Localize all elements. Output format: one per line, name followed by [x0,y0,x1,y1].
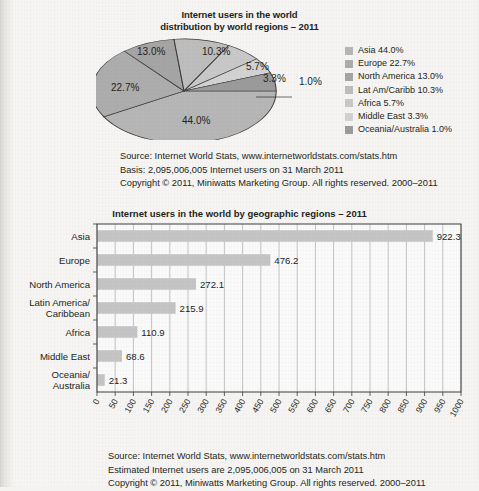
x-axis-tick-label: 800 [377,397,393,415]
pie-label-oceania: 1.0% [299,76,322,87]
bar-value-label: 272.1 [200,279,224,290]
x-axis-tick-label: 900 [413,397,429,415]
x-axis-tick-label: 150 [140,397,156,415]
legend-label: Middle East 3.3% [358,110,428,123]
pie-note-source-text: Source: Internet World Stats, www.intern… [120,151,397,161]
bar-category-label: Australia [53,380,91,391]
legend-label: Asia 44.0% [358,44,404,57]
x-axis-tick-label: 350 [213,397,229,415]
legend-swatch-icon [345,113,353,121]
x-axis-tick-label: 850 [395,397,411,415]
bar-note-source: Source: Internet World Stats, www.intern… [108,450,426,464]
legend-swatch-icon [345,47,353,55]
bar-category-label: Asia [71,231,90,242]
bar-chart: 922.3476.2272.1215.9110.968.621.3AsiaEur… [0,222,479,422]
pie-label-middle-east: 3.3% [263,73,286,84]
bar-note-copyright: Copyright © 2011, Miniwatts Marketing Gr… [108,477,426,491]
pie-title-line-2: distribution by world regions – 2011 [0,21,479,33]
bar-chart-title: Internet users in the world by geographi… [0,208,479,219]
legend-swatch-icon [345,86,353,94]
pie-label-lat-am-caribb: 10.3% [202,46,230,57]
legend-item-europe: Europe 22.7% [345,57,452,70]
bar-category-label: North America [29,279,90,290]
bar-category-label: Europe [59,255,90,266]
pie-chart-title: Internet users in the world distribution… [0,9,479,33]
bar-category-label: Middle East [40,351,90,362]
x-axis-tick-label: 1000 [448,397,466,419]
x-axis-tick-label: 700 [341,397,357,415]
x-axis-tick-label: 250 [177,397,193,415]
bar [97,350,122,362]
x-axis-tick-label: 100 [122,397,138,415]
bar-value-label: 110.9 [141,327,164,338]
pie-legend: Asia 44.0% Europe 22.7% North America 13… [345,44,452,136]
bar-category-label: Latin America/ [29,297,90,308]
bar [97,230,433,242]
pie-note-basis: Basis: 2,095,006,005 Internet users on 3… [120,164,438,178]
bar-category-label: Oceania/ [52,369,91,380]
x-axis-tick-label: 500 [268,397,284,415]
legend-label: Oceania/Australia 1.0% [358,123,452,136]
pie-label-africa: 5.7% [246,61,269,72]
legend-item-north-america: North America 13.0% [345,70,452,83]
pie-label-north-america: 13.0% [137,46,165,57]
legend-item-lat-am-caribb: Lat Am/Caribb 10.3% [345,84,452,97]
category-labels: AsiaEuropeNorth AmericaLatin America/Car… [29,224,97,391]
pie-note-copyright: Copyright © 2011, Miniwatts Marketing Gr… [120,177,438,191]
bar [97,374,105,386]
bar-note-estimate: Estimated Internet users are 2,095,006,0… [108,464,426,478]
x-axis-tick-label: 450 [250,397,266,415]
bar-category-label: Africa [65,327,90,338]
pie-title-line-1: Internet users in the world [0,9,479,21]
bar [97,278,196,290]
pie-chart: 44.0% 22.7% 13.0% 10.3% 5.7% 3.3% 1.0% [96,36,346,140]
bar-value-label: 476.2 [274,255,298,266]
x-axis-tick-label: 950 [432,397,448,415]
legend-label: Africa 5.7% [358,97,404,110]
x-axis-tick-label: 750 [359,397,375,415]
legend-swatch-icon [345,60,353,68]
bar-value-label: 922.3 [437,231,461,242]
bar [97,326,137,338]
legend-swatch-icon [345,73,353,81]
bar [97,302,176,314]
x-axis: 0501001502002503003504004505005506006507… [91,392,466,419]
legend-label: Europe 22.7% [358,57,415,70]
bar-source-notes: Source: Internet World Stats, www.intern… [108,450,426,491]
bar-category-label: Caribbean [46,308,90,319]
bar-value-label: 68.6 [126,351,145,362]
legend-label: North America 13.0% [358,70,443,83]
bar-value-label: 21.3 [109,375,128,386]
pie-source-notes: Source: Internet World Stats, www.intern… [120,150,438,191]
x-axis-tick-label: 300 [195,397,211,415]
legend-item-middle-east: Middle East 3.3% [345,110,452,123]
legend-item-oceania-australia: Oceania/Australia 1.0% [345,123,452,136]
x-axis-tick-label: 0 [91,397,102,406]
bar-chart-svg: 922.3476.2272.1215.9110.968.621.3AsiaEur… [0,222,479,422]
pie-label-asia: 44.0% [182,115,210,126]
legend-swatch-icon [345,99,353,107]
legend-item-africa: Africa 5.7% [345,97,452,110]
bar-value-label: 215.9 [180,303,204,314]
x-axis-tick-label: 550 [286,397,302,415]
legend-item-asia: Asia 44.0% [345,44,452,57]
x-axis-tick-label: 200 [159,397,175,415]
x-axis-tick-label: 650 [322,397,338,415]
x-axis-tick-label: 50 [106,397,120,410]
x-axis-tick-label: 600 [304,397,320,415]
bar [97,254,270,266]
legend-label: Lat Am/Caribb 10.3% [358,84,443,97]
pie-note-source: Source: Internet World Stats, www.intern… [120,150,438,164]
x-axis-tick-label: 400 [231,397,247,415]
pie-label-europe: 22.7% [111,82,139,93]
legend-swatch-icon [345,126,353,134]
